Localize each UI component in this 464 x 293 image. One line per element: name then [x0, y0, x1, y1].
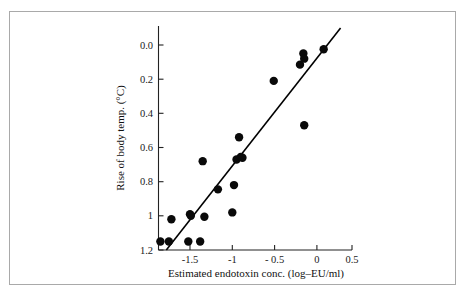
data-point: [270, 77, 278, 85]
scatter-plot: 1.2 1 0.8 0.6 0.4 0.2 0.0 -1.5 -1 - 0.5 …: [0, 0, 464, 293]
x-tick-label-1: -1: [228, 254, 237, 265]
data-point: [235, 133, 243, 141]
data-point: [187, 212, 195, 220]
data-point: [230, 181, 238, 189]
chart-canvas: 1.2 1 0.8 0.6 0.4 0.2 0.0 -1.5 -1 - 0.5 …: [0, 0, 464, 293]
y-tick-label-2: 0.8: [140, 176, 153, 187]
y-tick-label-3: 0.6: [140, 142, 153, 153]
data-point: [214, 185, 222, 193]
data-point: [156, 237, 164, 245]
y-tick-label-6: 0.0: [140, 40, 153, 51]
x-tick-label-4: 0.5: [345, 254, 358, 265]
y-tick-labels: 1.2 1 0.8 0.6 0.4 0.2 0.0: [140, 40, 154, 256]
data-point: [300, 54, 308, 62]
x-axis-title: Estimated endotoxin conc. (log–EU/ml): [168, 267, 344, 280]
data-point: [319, 45, 327, 53]
y-tick-marks: [159, 45, 164, 250]
y-axis-title: Rise of body temp. (°C): [114, 85, 127, 191]
x-tick-label-2: - 0.5: [265, 254, 284, 265]
y-tick-label-0: 1.2: [140, 245, 153, 256]
x-tick-label-0: -1.5: [182, 254, 199, 265]
data-point: [167, 215, 175, 223]
data-point: [165, 237, 173, 245]
data-point: [238, 154, 246, 162]
data-point: [196, 237, 204, 245]
y-tick-label-1: 1: [148, 210, 153, 221]
figure-root: 1.2 1 0.8 0.6 0.4 0.2 0.0 -1.5 -1 - 0.5 …: [0, 0, 464, 293]
y-tick-label-5: 0.2: [140, 74, 153, 85]
data-point: [184, 237, 192, 245]
x-tick-marks: [190, 245, 352, 250]
data-point: [228, 208, 236, 216]
data-point: [198, 157, 206, 165]
data-point: [200, 212, 208, 220]
data-point: [300, 121, 308, 129]
data-points-group: [156, 45, 328, 246]
y-tick-label-4: 0.4: [140, 108, 154, 119]
x-tick-labels: -1.5 -1 - 0.5 0 0.5: [182, 254, 359, 265]
x-tick-label-3: 0: [314, 254, 319, 265]
